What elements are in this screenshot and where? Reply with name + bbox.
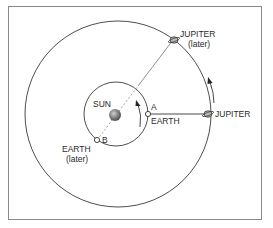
jupiter-label: JUPITER [215, 109, 250, 119]
point-b-label: B [102, 135, 108, 145]
orbit-diagram: SUN A EARTH B EARTH (later) JUPITER JUPI… [0, 0, 273, 228]
earth-later-icon [94, 137, 99, 142]
jupiter-later-icon [168, 36, 180, 43]
earth-label: EARTH [151, 116, 180, 126]
earth-arrowhead-icon [136, 100, 141, 106]
jupiter-arrowhead-icon [208, 77, 213, 84]
earth-later-sublabel: (later) [66, 154, 88, 164]
earth-later-label: EARTH [62, 144, 91, 154]
earth-motion-arrow-icon [138, 104, 141, 127]
sun-label: SUN [93, 99, 111, 109]
jupiter-later-label: JUPITER [180, 29, 215, 39]
sun-icon [109, 109, 121, 121]
jupiter-motion-arrow-icon [210, 82, 214, 103]
jupiter-later-sublabel: (later) [188, 39, 210, 49]
sightline-to-jupiter-later [138, 40, 173, 86]
earth-icon [145, 111, 150, 116]
jupiter-icon [202, 110, 214, 117]
point-a-label: A [151, 102, 157, 112]
